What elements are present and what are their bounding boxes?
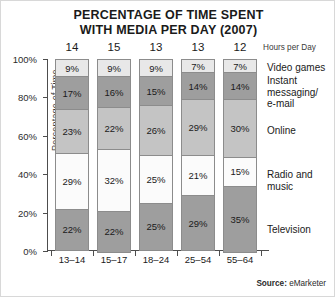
legend-label-line: e-mail [267,98,335,110]
y-axis-tick: 80% [43,97,48,98]
legend-label-line: Television [267,224,335,236]
bar-segment[interactable]: 25% [139,155,173,203]
hours-per-day-value: 13 [135,41,177,53]
bar-segment[interactable]: 30% [223,99,257,157]
source-value: eMarketer [289,279,326,288]
legend-label-line: music [267,181,335,193]
stacked-bar[interactable]: 9%15%26%25%25% [139,59,173,251]
bar-segment[interactable]: 29% [181,195,215,251]
legend-item[interactable]: Radio andmusic [267,169,335,192]
legend-label-line: Online [267,125,335,137]
bar-segment[interactable]: 35% [223,186,257,253]
legend-item[interactable]: Video games [267,62,335,74]
bar-segment[interactable]: 14% [223,72,257,99]
y-axis-tick: 60% [43,136,48,137]
stacked-bar[interactable]: 7%14%30%15%35% [223,59,257,251]
hours-per-day-value: 15 [93,41,135,53]
y-axis-line [47,59,48,251]
chart-title: PERCENTAGE OF TIME SPENT WITH MEDIA PER … [1,8,335,38]
source-note: Source: eMarketer [256,279,326,288]
hours-per-day-row: 1415131312Hours per Day [1,41,335,57]
bar-segment[interactable]: 7% [181,59,215,72]
hours-per-day-axis-label: Hours per Day [263,43,316,52]
bar-segment[interactable]: 14% [181,72,215,99]
legend-label-line: Radio and [267,169,335,181]
y-axis-tick: 100% [43,59,48,60]
bar-segment[interactable]: 9% [97,59,131,76]
x-axis-category-label: 13–14 [48,254,96,265]
y-axis-tick-label: 60% [18,130,37,141]
y-axis-tick-label: 40% [18,169,37,180]
legend-label-line: Video games [267,62,335,74]
stacked-bar[interactable]: 7%14%29%21%29% [181,59,215,251]
chart-title-line-2: WITH MEDIA PER DAY (2007) [1,23,335,38]
legend-label-line: Instant [267,75,335,87]
hours-per-day-value: 13 [177,41,219,53]
y-axis-tick: 40% [43,174,48,175]
hours-per-day-value: 12 [219,41,261,53]
bar-segment[interactable]: 17% [55,76,89,109]
y-axis-tick-label: 0% [23,246,37,257]
bar-segment[interactable]: 29% [55,153,89,209]
stacked-bar[interactable]: 9%16%22%32%22% [97,59,131,251]
y-axis-tick: 0% [43,251,48,252]
bar-segment[interactable]: 26% [139,105,173,155]
bar-segment[interactable]: 9% [55,59,89,76]
legend-item[interactable]: Instantmessaging/e-mail [267,75,335,110]
x-axis-category-label: 25–54 [174,254,222,265]
stacked-bar[interactable]: 9%17%23%29%22% [55,59,89,251]
y-axis-tick-label: 80% [18,92,37,103]
legend-item[interactable]: Online [267,125,335,137]
bar-segment[interactable]: 21% [181,155,215,195]
bar-segment[interactable]: 22% [97,107,131,149]
legend-item[interactable]: Television [267,224,335,236]
chart-figure: PERCENTAGE OF TIME SPENT WITH MEDIA PER … [0,0,335,297]
bar-segment[interactable]: 22% [55,209,89,251]
bar-segment[interactable]: 22% [97,211,131,253]
bar-segment[interactable]: 29% [181,99,215,155]
x-axis-category-label: 18–24 [132,254,180,265]
legend-label-line: messaging/ [267,87,335,99]
bar-segment[interactable]: 23% [55,109,89,153]
plot-area: Percentage of Time 0%20%40%60%80%100%9%1… [47,59,259,251]
y-axis-tick: 20% [43,213,48,214]
bar-segment[interactable]: 25% [139,203,173,251]
bar-segment[interactable]: 15% [139,76,173,105]
hours-per-day-value: 14 [51,41,93,53]
bar-segment[interactable]: 7% [223,59,257,72]
source-label: Source: [256,279,286,288]
bar-segment[interactable]: 16% [97,76,131,107]
bar-segment[interactable]: 32% [97,149,131,210]
y-axis-tick-label: 100% [13,54,37,65]
chart-title-line-1: PERCENTAGE OF TIME SPENT [1,8,335,23]
x-axis-category-label: 55–64 [216,254,264,265]
y-axis-tick-label: 20% [18,207,37,218]
bar-segment[interactable]: 9% [139,59,173,76]
bar-segment[interactable]: 15% [223,157,257,186]
x-axis-category-label: 15–17 [90,254,138,265]
